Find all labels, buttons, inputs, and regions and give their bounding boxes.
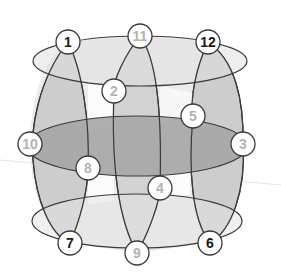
node-2: 2 xyxy=(102,79,126,103)
node-1: 1 xyxy=(56,30,80,54)
node-label: 7 xyxy=(66,235,74,251)
node-label: 4 xyxy=(156,180,164,196)
node-5: 5 xyxy=(181,104,205,128)
node-label: 10 xyxy=(22,136,38,152)
node-11: 11 xyxy=(128,24,152,48)
node-label: 6 xyxy=(206,235,214,251)
node-label: 8 xyxy=(84,160,92,176)
node-label: 12 xyxy=(200,34,216,50)
barrel-diagram: 111122510384796 xyxy=(0,0,281,280)
node-label: 2 xyxy=(110,83,118,99)
node-6: 6 xyxy=(198,231,222,255)
middle-ellipse xyxy=(27,116,247,176)
node-label: 3 xyxy=(239,136,247,152)
node-label: 1 xyxy=(64,34,72,50)
node-7: 7 xyxy=(58,231,82,255)
node-8: 8 xyxy=(76,156,100,180)
node-9: 9 xyxy=(125,241,149,265)
node-label: 11 xyxy=(133,28,148,44)
node-3: 3 xyxy=(231,132,255,156)
node-10: 10 xyxy=(18,132,42,156)
diagram-canvas: 111122510384796 xyxy=(0,0,281,280)
node-4: 4 xyxy=(148,176,172,200)
node-label: 5 xyxy=(189,108,197,124)
node-label: 9 xyxy=(133,245,141,261)
node-12: 12 xyxy=(196,30,220,54)
